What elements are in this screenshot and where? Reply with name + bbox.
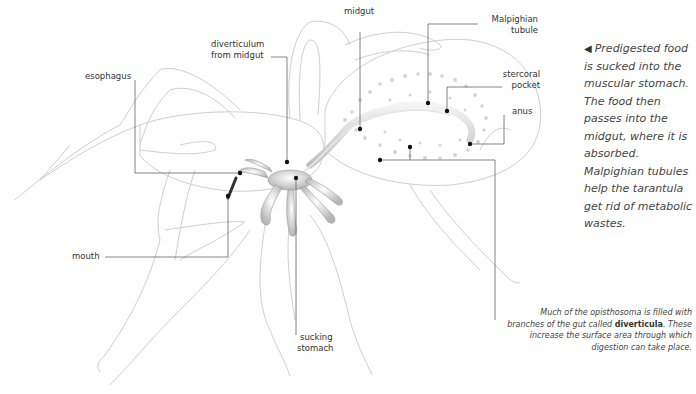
note-bold-term: diverticula: [615, 320, 663, 329]
label-diverticulum-line1: diverticulum: [211, 39, 264, 50]
label-stercoral-pocket: stercoral pocket: [480, 69, 540, 91]
label-anus: anus: [512, 106, 532, 117]
label-malpighian-line2: tubule: [478, 25, 538, 36]
caption-text: Predigested food is sucked into the musc…: [584, 42, 692, 230]
leader-dots: [226, 101, 472, 198]
label-sucking-line1: sucking: [297, 332, 334, 343]
sucking-stomach: [238, 159, 343, 236]
label-sucking-stomach: sucking stomach: [297, 332, 334, 354]
label-midgut: midgut: [344, 6, 374, 17]
label-sucking-line2: stomach: [297, 343, 334, 354]
label-stercoral-line1: stercoral: [480, 69, 540, 80]
label-malpighian-line1: Malpighian: [478, 14, 538, 25]
label-mouth: mouth: [72, 251, 100, 262]
label-stercoral-line2: pocket: [480, 80, 540, 91]
caption: ◀Predigested food is sucked into the mus…: [584, 40, 696, 233]
diverticula-note: Much of the opisthosoma is filled with b…: [502, 307, 692, 353]
midgut-highlight: [300, 110, 450, 175]
tarantula-digestive-diagram: midgut Malpighian tubule diverticulum fr…: [0, 0, 696, 394]
label-malpighian-tubule: Malpighian tubule: [478, 14, 538, 36]
label-diverticulum: diverticulum from midgut: [211, 39, 264, 61]
left-triangle-icon: ◀: [584, 43, 592, 54]
label-diverticulum-line2: from midgut: [211, 50, 264, 61]
label-esophagus: esophagus: [85, 71, 131, 82]
